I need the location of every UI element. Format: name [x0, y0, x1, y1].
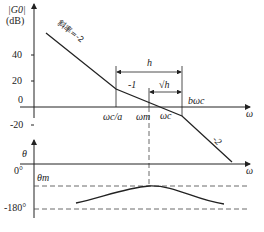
bode-diagram: |G0| (dB) 40 20 0 -20 ω 斜率=-2 -1 -2 h √h… [0, 0, 264, 232]
high-corner-label: bωc [188, 95, 205, 106]
magnitude-x-label: ω [246, 108, 253, 119]
phase-y-label: θ [22, 148, 27, 159]
h-interval-label: h [147, 57, 152, 68]
magnitude-y-unit: (dB) [6, 15, 24, 27]
y-tick-40: 40 [12, 49, 22, 60]
magnitude-y-label: |G0| [8, 4, 26, 15]
crossover-freq-label: ωc [160, 110, 172, 121]
phase-plot: θ ω 0° -180° θm [4, 140, 253, 218]
phase-tick-0: 0° [14, 165, 23, 176]
magnitude-plot: |G0| (dB) 40 20 0 -20 ω 斜率=-2 -1 -2 h √h… [6, 4, 253, 162]
slope-label-middle: -1 [128, 79, 136, 90]
slope-label-first: 斜率=-2 [56, 18, 86, 45]
y-tick-minus20: -20 [10, 119, 23, 130]
max-phase-freq-label: ωm [136, 111, 150, 122]
y-tick-0: 0 [18, 94, 23, 105]
phase-curve [76, 186, 224, 204]
slope-label-last: -2 [211, 134, 225, 148]
y-tick-20: 20 [12, 75, 22, 86]
low-corner-label: ωc/a [103, 111, 122, 122]
phase-peak-label: θm [37, 172, 49, 183]
phase-x-label: ω [246, 165, 253, 176]
phase-tick-minus180: -180° [4, 202, 26, 213]
sqrt-h-interval-label: √h [159, 79, 170, 90]
